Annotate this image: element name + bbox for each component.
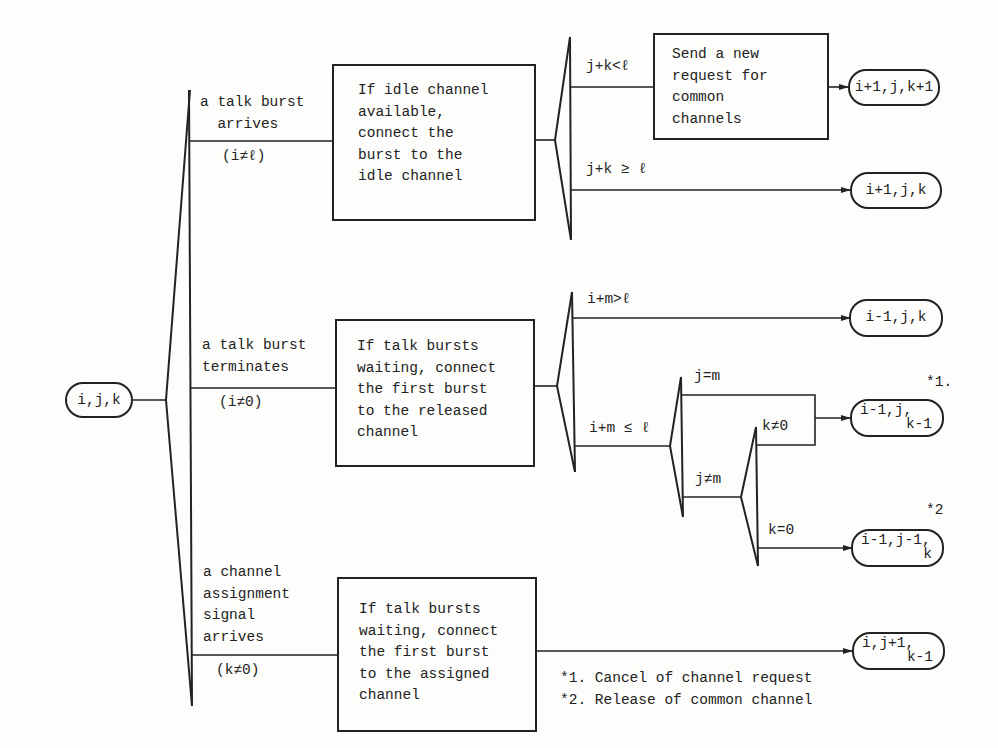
- state-node-i-1-j-k-1: i-1,j, k-1: [850, 399, 944, 437]
- state-label: i,j,k: [67, 392, 131, 408]
- footnote-1: *1. Cancel of channel request: [560, 668, 812, 690]
- action-box-connect-assigned: If talk bursts waiting, connect the firs…: [337, 577, 537, 732]
- state-label-line2: k-1: [907, 649, 933, 665]
- action-text: If talk bursts waiting, connect the firs…: [359, 599, 498, 707]
- footnote-marker-2: *2: [926, 500, 943, 522]
- condition-j-ne-m: j≠m: [695, 469, 721, 491]
- action-text: If talk bursts waiting, connect the firs…: [357, 336, 496, 444]
- condition-j-eq-m: j=m: [694, 366, 720, 388]
- action-box-connect-released: If talk bursts waiting, connect the firs…: [335, 319, 535, 467]
- state-node-i-j+1-k-1: i,j+1, k-1: [852, 632, 945, 670]
- state-label: i+1,j,k: [852, 182, 940, 198]
- condition-k-ne-0: k≠0: [762, 416, 788, 438]
- state-label: i+1,j,k+1: [850, 79, 938, 95]
- condition-k-eq-0: k=0: [768, 520, 794, 542]
- action-box-connect-idle: If idle channel available, connect the b…: [332, 64, 536, 221]
- condition-i-plus-m-le-l: i+m ≤ ℓ: [589, 418, 650, 440]
- state-node-i-1-j-1-k: i-1,j-1, k: [851, 529, 944, 567]
- event-label-arrival: a talk burst arrives: [200, 92, 304, 135]
- footnote-2: *2. Release of common channel: [560, 690, 812, 712]
- condition-j-plus-k-lt-l: j+k<ℓ: [586, 56, 630, 78]
- condition-arrival: (i≠ℓ): [222, 146, 266, 168]
- event-label-assignment: a channel assignment signal arrives: [203, 562, 290, 648]
- condition-i-plus-m-gt-l: i+m>ℓ: [587, 289, 631, 311]
- state-node-start: i,j,k: [65, 382, 133, 418]
- condition-assignment: (k≠0): [216, 660, 260, 682]
- condition-j-plus-k-ge-l: j+k ≥ ℓ: [586, 159, 647, 181]
- state-label-line2: k-1: [906, 416, 932, 432]
- state-node-i-1-j-k: i-1,j,k: [849, 299, 943, 337]
- state-transition-diagram: i,j,k a talk burst arrives (i≠ℓ) a talk …: [0, 0, 998, 748]
- state-node-i+1-j-k+1: i+1,j,k+1: [848, 69, 940, 106]
- state-node-i+1-j-k: i+1,j,k: [850, 172, 942, 209]
- footnote-marker-1: *1.: [926, 372, 952, 394]
- action-text: If idle channel available, connect the b…: [358, 80, 489, 188]
- action-text: Send a new request for common channels: [672, 44, 768, 130]
- state-label-line2: k: [923, 546, 932, 562]
- state-label-line1: i-1,j-1,: [861, 532, 931, 548]
- action-box-send-request: Send a new request for common channels: [653, 33, 829, 140]
- state-label: i-1,j,k: [851, 309, 941, 325]
- state-label-line1: i-1,j,: [860, 402, 912, 418]
- event-label-termination: a talk burst terminates: [202, 335, 306, 378]
- condition-termination: (i≠0): [219, 392, 263, 414]
